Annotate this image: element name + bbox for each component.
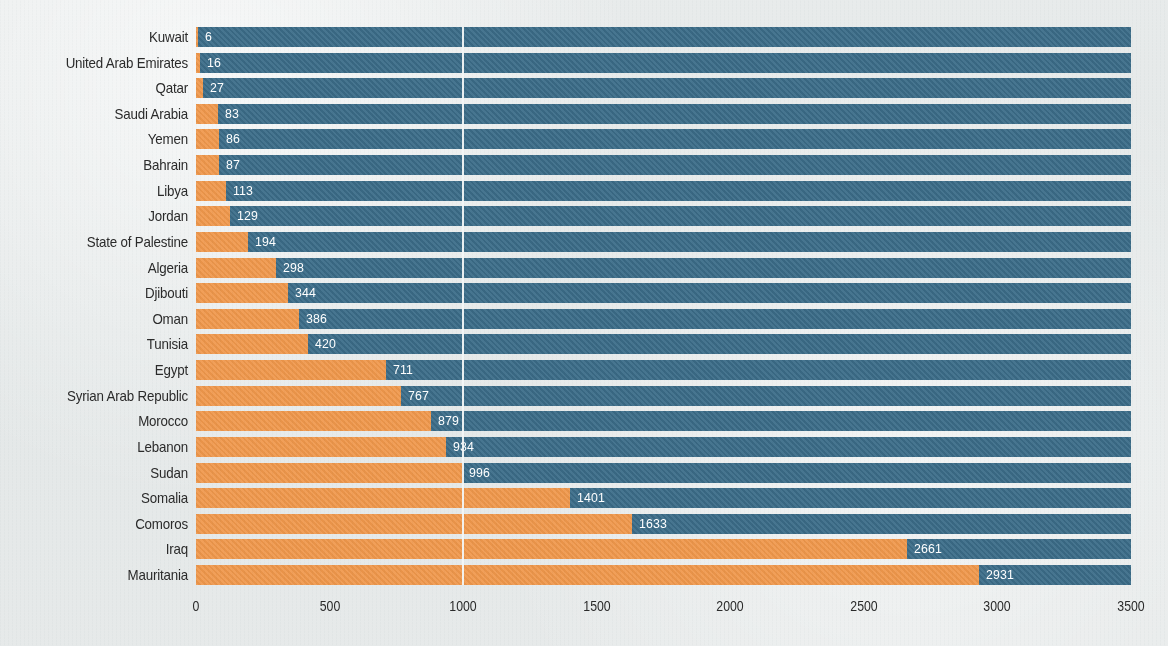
- bar-value-label: 344: [295, 283, 316, 303]
- bar-row: [196, 488, 1131, 508]
- category-label: Sudan: [15, 463, 188, 483]
- bar-segment-value: [196, 514, 632, 534]
- bar-segment-value: [196, 463, 462, 483]
- category-label: Syrian Arab Republic: [15, 386, 188, 406]
- category-label: United Arab Emirates: [15, 53, 188, 73]
- bar-segment-remainder: [200, 53, 1131, 73]
- bar-row: [196, 129, 1131, 149]
- bar-value-label: 194: [255, 232, 276, 252]
- category-label: Libya: [15, 181, 188, 201]
- bar-segment-remainder: [299, 309, 1131, 329]
- bar-segment-remainder: [248, 232, 1131, 252]
- bar-value-label: 27: [210, 78, 224, 98]
- category-label: Algeria: [15, 258, 188, 278]
- bar-segment-value: [196, 437, 446, 457]
- x-axis-tick-label: 2000: [695, 597, 765, 615]
- x-axis-tick-label: 1000: [428, 597, 498, 615]
- bar-value-label: 86: [226, 129, 240, 149]
- bar-row: [196, 78, 1131, 98]
- bar-chart: Kuwait6United Arab Emirates16Qatar27Saud…: [0, 0, 1168, 646]
- bar-segment-remainder: [218, 104, 1131, 124]
- bar-segment-value: [196, 360, 386, 380]
- category-label: State of Palestine: [15, 232, 188, 252]
- bar-value-label: 16: [207, 53, 221, 73]
- bar-value-label: 129: [237, 206, 258, 226]
- category-label: Somalia: [15, 488, 188, 508]
- bar-row: [196, 53, 1131, 73]
- x-axis-tick-label: 3000: [962, 597, 1032, 615]
- bar-segment-value: [196, 104, 218, 124]
- bar-segment-remainder: [446, 437, 1131, 457]
- bar-value-label: 711: [393, 360, 413, 380]
- bar-segment-remainder: [276, 258, 1131, 278]
- category-label: Oman: [15, 309, 188, 329]
- bar-segment-value: [196, 181, 226, 201]
- bar-segment-value: [196, 539, 907, 559]
- bar-value-label: 879: [438, 411, 459, 431]
- x-axis-tick-label: 2500: [829, 597, 899, 615]
- bar-segment-remainder: [230, 206, 1131, 226]
- bar-value-label: 996: [469, 463, 490, 483]
- bar-row: [196, 309, 1131, 329]
- category-label: Morocco: [15, 411, 188, 431]
- bar-segment-remainder: [431, 411, 1131, 431]
- bar-segment-value: [196, 155, 219, 175]
- bar-segment-remainder: [198, 27, 1131, 47]
- bar-row: [196, 232, 1131, 252]
- category-label: Saudi Arabia: [15, 104, 188, 124]
- x-axis-tick-label: 500: [294, 597, 364, 615]
- category-label: Mauritania: [15, 565, 188, 585]
- bar-row: [196, 437, 1131, 457]
- bar-value-label: 298: [283, 258, 304, 278]
- bar-segment-value: [196, 232, 248, 252]
- bar-value-label: 2931: [986, 565, 1014, 585]
- bar-segment-remainder: [226, 181, 1131, 201]
- bar-value-label: 2661: [914, 539, 942, 559]
- bar-value-label: 767: [408, 386, 429, 406]
- bar-row: [196, 104, 1131, 124]
- bar-row: [196, 181, 1131, 201]
- bar-segment-value: [196, 78, 203, 98]
- bar-segment-value: [196, 565, 979, 585]
- category-label: Bahrain: [15, 155, 188, 175]
- bar-segment-value: [196, 488, 570, 508]
- bar-segment-remainder: [570, 488, 1131, 508]
- category-label: Yemen: [15, 129, 188, 149]
- category-label: Egypt: [15, 360, 188, 380]
- bar-segment-value: [196, 386, 401, 406]
- bar-value-label: 1633: [639, 514, 667, 534]
- bar-segment-value: [196, 411, 431, 431]
- bar-value-label: 386: [306, 309, 327, 329]
- bar-row: [196, 539, 1131, 559]
- bar-value-label: 6: [205, 27, 212, 47]
- bar-segment-value: [196, 206, 230, 226]
- bar-row: [196, 463, 1131, 483]
- bar-row: [196, 386, 1131, 406]
- x-axis-tick-label: 1500: [562, 597, 632, 615]
- bar-segment-value: [196, 309, 299, 329]
- bar-segment-remainder: [219, 155, 1131, 175]
- bar-value-label: 83: [225, 104, 239, 124]
- category-label: Lebanon: [15, 437, 188, 457]
- category-label: Qatar: [15, 78, 188, 98]
- bar-row: [196, 27, 1131, 47]
- bar-segment-value: [196, 258, 276, 278]
- bar-row: [196, 283, 1131, 303]
- plot-area: Kuwait6United Arab Emirates16Qatar27Saud…: [0, 0, 1168, 646]
- bar-segment-remainder: [632, 514, 1131, 534]
- bar-segment-remainder: [203, 78, 1131, 98]
- category-label: Djibouti: [15, 283, 188, 303]
- bar-row: [196, 206, 1131, 226]
- bar-segment-value: [196, 334, 308, 354]
- x-axis-tick-label: 0: [161, 597, 231, 615]
- bar-value-label: 420: [315, 334, 336, 354]
- bar-value-label: 113: [233, 181, 253, 201]
- category-label: Iraq: [15, 539, 188, 559]
- bar-row: [196, 155, 1131, 175]
- bar-segment-remainder: [219, 129, 1131, 149]
- bar-row: [196, 360, 1131, 380]
- bar-row: [196, 258, 1131, 278]
- bar-segment-remainder: [462, 463, 1131, 483]
- bar-value-label: 1401: [577, 488, 605, 508]
- bar-segment-value: [196, 27, 198, 47]
